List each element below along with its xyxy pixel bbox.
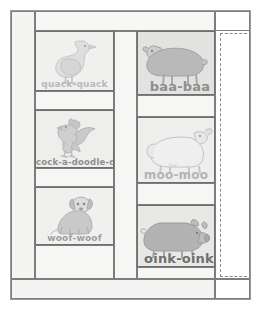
panel-label-duck: quack-quack bbox=[36, 80, 113, 89]
panel-label-dog: woof-woof bbox=[36, 234, 113, 243]
page-root: quack-quack cock-a-doodle-doo bbox=[0, 0, 261, 310]
spacer-left-1 bbox=[35, 91, 114, 110]
animal-panel-rooster[interactable]: cock-a-doodle-doo bbox=[35, 110, 114, 168]
spacer-right-3 bbox=[137, 267, 215, 279]
animal-panel-duck[interactable]: quack-quack bbox=[35, 31, 114, 91]
animal-panel-cow[interactable]: moo-moo bbox=[137, 117, 215, 183]
bottom-right-box bbox=[215, 279, 250, 299]
top-bar bbox=[35, 11, 215, 31]
spacer-left-2 bbox=[35, 168, 114, 187]
panel-label-pig: oink-oink bbox=[138, 252, 214, 265]
panel-label-sheep: baa-baa bbox=[138, 80, 214, 93]
spacer-left-3 bbox=[35, 245, 114, 279]
top-right-box bbox=[215, 11, 250, 31]
animal-panel-dog[interactable]: woof-woof bbox=[35, 187, 114, 245]
middle-gutter-column bbox=[114, 31, 137, 279]
left-gutter-column bbox=[11, 11, 35, 279]
right-margin-dashed-guide bbox=[220, 33, 247, 277]
spacer-right-1 bbox=[137, 95, 215, 117]
panel-label-rooster: cock-a-doodle-doo bbox=[36, 158, 113, 167]
animal-panel-sheep[interactable]: baa-baa bbox=[137, 31, 215, 95]
animal-panel-pig[interactable]: oink-oink bbox=[137, 205, 215, 267]
panel-label-cow: moo-moo bbox=[138, 169, 214, 181]
spacer-right-2 bbox=[137, 183, 215, 205]
bottom-bar bbox=[11, 279, 215, 299]
